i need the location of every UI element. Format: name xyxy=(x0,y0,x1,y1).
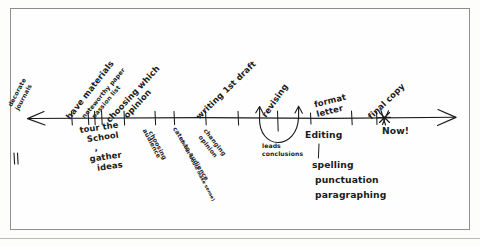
timeline-drawing xyxy=(0,0,480,246)
margin-double-tick xyxy=(14,153,18,164)
label-spelling: spelling xyxy=(312,160,354,170)
screenshot-canvas: decorate journals have materials notewor… xyxy=(0,0,480,246)
label-now: Now! xyxy=(382,126,409,136)
label-tour-the-school-gather-ideas: tour the School , gather ideas xyxy=(79,121,125,176)
label-editing: Editing xyxy=(305,130,342,140)
label-paragraphing: paragraphing xyxy=(315,190,386,200)
revision-arc xyxy=(259,118,298,143)
label-punctuation: punctuation xyxy=(315,175,379,185)
editing-leader-line xyxy=(318,144,319,158)
label-leads-conclusions: leads conclusions xyxy=(262,142,303,158)
